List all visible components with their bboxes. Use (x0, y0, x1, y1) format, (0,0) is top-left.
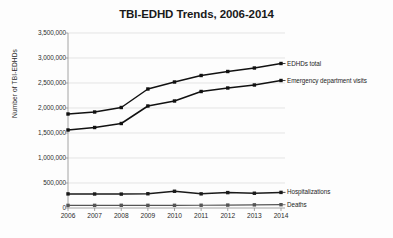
data-point-marker (66, 128, 69, 131)
data-point-marker (120, 122, 123, 125)
data-point-marker (173, 204, 176, 207)
x-axis-tick-label: 2013 (241, 212, 267, 219)
data-point-marker (226, 70, 229, 73)
data-point-marker (253, 66, 256, 69)
data-point-marker (146, 204, 149, 207)
data-point-marker (66, 192, 69, 195)
data-point-marker (253, 83, 256, 86)
x-axis-tick-label: 2011 (188, 212, 214, 219)
series-label-hospitalizations: Hospitalizations (287, 188, 330, 195)
data-point-marker (120, 192, 123, 195)
data-point-marker (199, 192, 202, 195)
data-point-marker (120, 204, 123, 207)
data-point-marker (93, 126, 96, 129)
data-point-marker (146, 104, 149, 107)
series-line (68, 64, 281, 115)
series-line (68, 81, 281, 131)
data-point-marker (199, 90, 202, 93)
data-point-marker (226, 191, 229, 194)
x-axis-tick-label: 2012 (215, 212, 241, 219)
data-point-marker (173, 80, 176, 83)
plot-area (0, 0, 393, 238)
data-point-marker (93, 192, 96, 195)
data-point-marker (226, 86, 229, 89)
data-point-marker (173, 99, 176, 102)
data-point-marker (120, 106, 123, 109)
series-label-deaths: Deaths (287, 201, 307, 208)
x-axis-tick-label: 2006 (55, 212, 81, 219)
series-label-edhds-total: EDHDs total (287, 60, 321, 67)
data-point-marker (146, 87, 149, 90)
x-axis-tick-label: 2014 (268, 212, 294, 219)
data-point-marker (199, 74, 202, 77)
data-point-marker (226, 203, 229, 206)
data-point-marker (93, 110, 96, 113)
x-axis-tick-label: 2010 (162, 212, 188, 219)
series-label-emergency-department-visits: Emergency department visits (287, 77, 367, 84)
x-axis-tick-label: 2007 (82, 212, 108, 219)
data-point-marker (199, 204, 202, 207)
data-point-marker (253, 203, 256, 206)
data-point-marker (173, 190, 176, 193)
data-point-marker (93, 204, 96, 207)
data-point-marker (253, 192, 256, 195)
x-axis-tick-label: 2009 (135, 212, 161, 219)
data-point-marker (146, 192, 149, 195)
data-point-marker (66, 112, 69, 115)
data-point-marker (66, 204, 69, 207)
chart-container: TBI-EDHD Trends, 2006-2014 Number of TBI… (0, 0, 393, 238)
x-axis-tick-label: 2008 (108, 212, 134, 219)
